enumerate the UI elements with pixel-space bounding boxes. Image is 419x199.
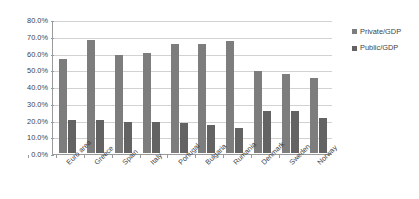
x-axis-label-cell: Rumania — [220, 159, 248, 199]
bar-private — [310, 78, 318, 153]
x-axis-label-cell: Italy — [137, 159, 165, 199]
bar-private — [254, 71, 262, 153]
bar-group — [193, 21, 221, 153]
y-axis-tick-label: 50.0% — [2, 68, 48, 75]
bar-group — [54, 21, 82, 153]
legend-label: Public/GDP — [360, 44, 398, 51]
bar-private — [59, 59, 67, 153]
bar-group — [110, 21, 138, 153]
bar-private — [115, 55, 123, 153]
legend-swatch-icon — [352, 46, 357, 51]
bar-public — [152, 122, 160, 153]
bar-group — [304, 21, 332, 153]
y-axis-tick-mark — [51, 122, 54, 123]
bar-private — [282, 74, 290, 153]
y-axis-tick-mark — [51, 155, 54, 156]
bar-public — [263, 111, 271, 153]
bar-group — [249, 21, 277, 153]
bar-public — [291, 111, 299, 153]
bar-chart: 80.0%70.0%60.0%50.0%40.0%30.0%20.0%10.0%… — [0, 0, 419, 199]
bar-group — [137, 21, 165, 153]
bar-private — [198, 44, 206, 153]
bar-private — [143, 53, 151, 154]
y-axis-tick-label: 40.0% — [2, 84, 48, 91]
x-axis-label-cell: Portugal — [165, 159, 193, 199]
bar-private — [226, 41, 234, 153]
x-axis-label-cell: Greece — [81, 159, 109, 199]
y-axis-tick-mark — [51, 21, 54, 22]
y-axis-tick-label: 30.0% — [2, 101, 48, 108]
plot-wrapper — [52, 21, 332, 155]
chart-legend: Private/GDPPublic/GDP — [352, 28, 418, 61]
y-axis-tick-mark — [51, 105, 54, 106]
y-axis-tick-mark — [51, 138, 54, 139]
y-axis-tick-label: 80.0% — [2, 17, 48, 24]
y-axis: 80.0%70.0%60.0%50.0%40.0%30.0%20.0%10.0%… — [0, 21, 48, 155]
y-axis-tick-label: 20.0% — [2, 118, 48, 125]
x-axis-label-cell: Denmark — [248, 159, 276, 199]
x-axis-label-cell: Bulgaria — [193, 159, 221, 199]
y-axis-tick-mark — [51, 71, 54, 72]
x-axis-tick-cell — [1, 155, 29, 159]
x-axis-tick-mark — [279, 155, 280, 158]
legend-swatch-icon — [352, 29, 357, 34]
y-axis-tick-mark — [51, 88, 54, 89]
x-axis-label-cell: Norway — [304, 159, 332, 199]
bar-private — [87, 40, 95, 153]
bar-group — [165, 21, 193, 153]
plot-area — [52, 21, 332, 155]
x-axis-label-cell: Sweden — [276, 159, 304, 199]
bar-groups — [54, 21, 332, 153]
y-axis-tick-label: 60.0% — [2, 51, 48, 58]
legend-label: Private/GDP — [360, 28, 401, 35]
bar-public — [319, 118, 327, 153]
y-axis-tick-mark — [51, 55, 54, 56]
y-axis-tick-mark — [51, 38, 54, 39]
x-axis-label-cell: Euro area — [53, 159, 81, 199]
bar-private — [171, 44, 179, 153]
bar-group — [82, 21, 110, 153]
y-axis-tick-label: 10.0% — [2, 135, 48, 142]
x-axis-labels: Euro areaGreeceSpainItalyPortugalBulgari… — [53, 159, 332, 199]
x-axis-label-cell: Spain — [109, 159, 137, 199]
bar-group — [221, 21, 249, 153]
y-axis-tick-label: 70.0% — [2, 34, 48, 41]
legend-item[interactable]: Private/GDP — [352, 28, 418, 35]
legend-item[interactable]: Public/GDP — [352, 44, 418, 51]
bar-group — [276, 21, 304, 153]
